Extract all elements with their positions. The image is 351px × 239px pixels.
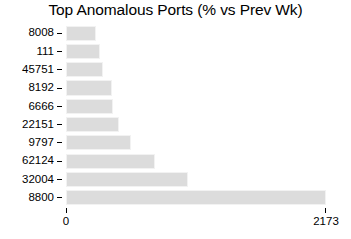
y-tick-label: 8192 xyxy=(28,82,54,94)
bar-62124 xyxy=(66,154,155,169)
bar-8008 xyxy=(66,26,96,41)
y-tick-label: 22151 xyxy=(22,119,54,131)
y-tick-mark xyxy=(57,142,62,143)
y-tick-row: 8800 xyxy=(0,189,66,207)
y-tick-row: 111 xyxy=(0,42,66,60)
y-tick-label: 111 xyxy=(37,46,54,58)
y-tick-label: 8800 xyxy=(28,192,54,204)
plot-area xyxy=(66,24,326,207)
y-tick-mark xyxy=(57,179,62,180)
y-tick-row: 45751 xyxy=(0,61,66,79)
bar-row xyxy=(66,170,326,188)
y-tick-mark xyxy=(57,106,62,107)
y-tick-row: 9797 xyxy=(0,134,66,152)
y-tick-mark xyxy=(57,51,62,52)
y-tick-row: 62124 xyxy=(0,152,66,170)
bar-22151 xyxy=(66,117,119,132)
y-tick-label: 45751 xyxy=(22,64,54,76)
y-tick-label: 8008 xyxy=(28,27,54,39)
bar-row xyxy=(66,115,326,133)
chart-title: Top Anomalous Ports (% vs Prev Wk) xyxy=(0,1,351,19)
y-tick-mark xyxy=(57,161,62,162)
y-tick-row: 32004 xyxy=(0,170,66,188)
bar-chart-figure: Top Anomalous Ports (% vs Prev Wk) 80081… xyxy=(0,0,351,239)
y-tick-row: 6666 xyxy=(0,97,66,115)
bar-8800 xyxy=(66,190,326,205)
bar-row xyxy=(66,134,326,152)
bar-row xyxy=(66,97,326,115)
x-tick-label: 2173 xyxy=(313,215,339,227)
x-axis: 02173 xyxy=(66,208,326,238)
bar-32004 xyxy=(66,172,188,187)
bar-45751 xyxy=(66,62,103,77)
y-tick-row: 8008 xyxy=(0,24,66,42)
bar-8192 xyxy=(66,80,112,95)
bar-row xyxy=(66,189,326,207)
bar-row xyxy=(66,42,326,60)
x-tick-label: 0 xyxy=(63,215,69,227)
y-tick-mark xyxy=(57,197,62,198)
bar-row xyxy=(66,24,326,42)
y-tick-row: 22151 xyxy=(0,115,66,133)
bar-6666 xyxy=(66,99,113,114)
y-tick-label: 6666 xyxy=(28,101,54,113)
y-axis-tick-labels: 8008111457518192666622151979762124320048… xyxy=(0,24,66,207)
y-tick-mark xyxy=(57,88,62,89)
bar-row xyxy=(66,152,326,170)
y-tick-label: 9797 xyxy=(28,137,54,149)
bar-111 xyxy=(66,44,100,59)
y-tick-label: 32004 xyxy=(22,174,54,186)
bar-row xyxy=(66,79,326,97)
x-tick-mark xyxy=(66,208,67,213)
y-tick-label: 62124 xyxy=(22,155,54,167)
x-tick-mark xyxy=(325,208,326,213)
y-tick-mark xyxy=(57,124,62,125)
bar-row xyxy=(66,61,326,79)
y-tick-mark xyxy=(57,69,62,70)
bar-9797 xyxy=(66,135,131,150)
y-tick-mark xyxy=(57,33,62,34)
y-tick-row: 8192 xyxy=(0,79,66,97)
